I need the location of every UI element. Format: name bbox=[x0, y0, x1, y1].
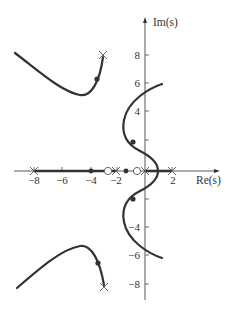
y-tick-label: 6 bbox=[135, 77, 141, 89]
point-dot-icon bbox=[130, 196, 135, 201]
point-dot-icon bbox=[124, 169, 129, 174]
upper-left-branch bbox=[15, 53, 103, 95]
y-tick-label: −6 bbox=[128, 249, 140, 261]
root-locus-plot: −8 −6 −4 −2 2 8 6 4 −4 −6 −8 Im(s) Re(s) bbox=[0, 0, 232, 309]
point-dot-icon bbox=[130, 139, 135, 144]
y-tick-label: −4 bbox=[128, 221, 140, 233]
x-tick-label: −4 bbox=[85, 174, 97, 186]
zero-circle-icon bbox=[133, 167, 140, 174]
y-tick-label: −8 bbox=[128, 278, 140, 290]
y-tick-label: 8 bbox=[135, 49, 141, 61]
imag-axis-arrow-icon bbox=[143, 17, 147, 23]
x-tick-label: 2 bbox=[170, 174, 176, 186]
x-tick-label: −6 bbox=[56, 174, 68, 186]
y-tick-label: 4 bbox=[135, 105, 141, 117]
x-axis-label: Re(s) bbox=[196, 174, 221, 187]
x-tick-label: −8 bbox=[28, 174, 40, 186]
real-axis-arrow-icon bbox=[214, 169, 220, 173]
zero-circle-icon bbox=[104, 167, 111, 174]
point-dot-icon bbox=[94, 76, 99, 81]
point-dot-icon bbox=[89, 169, 94, 174]
lower-left-branch bbox=[17, 246, 104, 288]
y-axis-label: Im(s) bbox=[153, 16, 178, 29]
point-dot-icon bbox=[95, 260, 100, 265]
x-tick-label: −2 bbox=[110, 174, 122, 186]
axes bbox=[14, 17, 220, 300]
